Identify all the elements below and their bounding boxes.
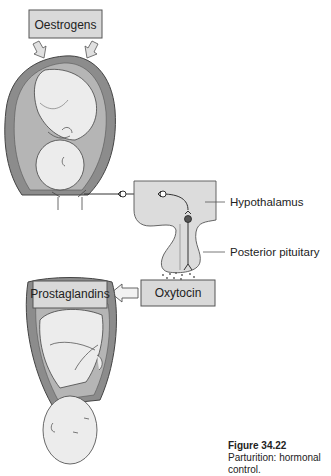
figure-caption: Figure 34.22 Parturition: hormonal contr…: [228, 440, 331, 476]
prostaglandins-label: Prostaglandins: [30, 287, 109, 301]
hypothalamus-label: Hypothalamus: [230, 196, 304, 208]
oxytocin-label: Oxytocin: [155, 286, 202, 300]
figure-number: Figure 34.22: [228, 440, 331, 452]
upper-uterus-fetus-illustration: [5, 56, 116, 210]
hypothalamus-pituitary-illustration: [134, 181, 216, 280]
oestrogens-arrow-right-icon: [85, 41, 98, 58]
oestrogens-box: Oestrogens: [29, 10, 102, 38]
prostaglandins-box: Prostaglandins: [30, 281, 109, 308]
figure-caption-text: Parturition: hormonal control.: [228, 452, 331, 476]
oxytocin-release-dots: [162, 272, 195, 280]
oestrogens-label: Oestrogens: [34, 18, 96, 32]
parturition-diagram: Oestrogens: [0, 0, 331, 476]
posterior-pituitary-label: Posterior pituitary: [230, 246, 320, 258]
neuron-cell-body-icon: [185, 216, 192, 223]
oestrogens-arrow-left-icon: [33, 41, 46, 58]
oxytocin-box: Oxytocin: [141, 280, 215, 306]
